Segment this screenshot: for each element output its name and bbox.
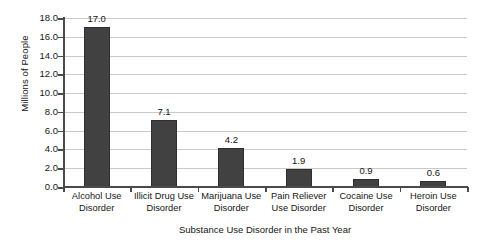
bar — [286, 169, 312, 187]
x-category-label-line: Marijuana Use — [198, 191, 265, 203]
y-tick-mark — [58, 74, 63, 76]
bar-value-label: 17.0 — [73, 14, 121, 24]
x-category-label-line: Pain Reliever — [265, 191, 332, 203]
x-category-label-line: Disorder — [130, 203, 197, 215]
y-tick-label: 12.0 — [18, 69, 58, 79]
x-category-label-line: Illicit Drug Use — [130, 191, 197, 203]
y-tick-label: 4.0 — [18, 144, 58, 154]
x-category-label-line: Disorder — [400, 203, 467, 215]
gridline — [63, 168, 467, 169]
x-tick-mark — [130, 187, 132, 192]
bar-value-label: 0.9 — [342, 166, 390, 176]
gridline — [63, 149, 467, 150]
y-tick-label: 0.0 — [18, 182, 58, 192]
x-category-label: Cocaine UseDisorder — [332, 191, 399, 214]
gridline — [63, 37, 467, 38]
y-tick-label: 6.0 — [18, 126, 58, 136]
x-category-label: Alcohol UseDisorder — [63, 191, 130, 214]
y-tick-mark — [58, 112, 63, 114]
x-category-label: Pain RelieverUse Disorder — [265, 191, 332, 214]
y-tick-label: 2.0 — [18, 163, 58, 173]
bar-value-label: 7.1 — [140, 107, 188, 117]
plot-area: 17.07.14.21.90.90.6 — [63, 18, 467, 187]
y-tick-label: 16.0 — [18, 32, 58, 42]
bar — [218, 148, 244, 187]
x-tick-mark — [198, 187, 200, 192]
y-tick-mark — [58, 168, 63, 170]
y-tick-mark — [58, 18, 63, 20]
gridline — [63, 56, 467, 57]
x-category-label-line: Disorder — [198, 203, 265, 215]
bar-value-label: 0.6 — [409, 168, 457, 178]
gridline — [63, 131, 467, 132]
x-category-label: Illicit Drug UseDisorder — [130, 191, 197, 214]
y-tick-mark — [58, 149, 63, 151]
gridline — [63, 112, 467, 113]
y-axis-line — [63, 17, 65, 188]
bar-value-label: 4.2 — [207, 135, 255, 145]
y-tick-mark — [58, 37, 63, 39]
gridline — [63, 74, 467, 75]
x-tick-mark — [467, 187, 469, 192]
x-category-label-line: Alcohol Use — [63, 191, 130, 203]
x-category-label: Heroin UseDisorder — [400, 191, 467, 214]
x-category-label-line: Cocaine Use — [332, 191, 399, 203]
x-category-label-line: Use Disorder — [265, 203, 332, 215]
gridline — [63, 93, 467, 94]
x-axis-category-labels: Alcohol UseDisorderIllicit Drug UseDisor… — [63, 191, 467, 221]
x-tick-mark — [265, 187, 267, 192]
y-tick-label: 14.0 — [18, 51, 58, 61]
bar — [151, 120, 177, 187]
y-axis-tick-labels: 18.016.014.012.010.08.06.04.02.00.0 — [18, 12, 58, 188]
x-tick-mark — [63, 187, 65, 192]
x-axis-title: Substance Use Disorder in the Past Year — [63, 224, 467, 235]
bar — [84, 27, 110, 187]
gridline — [63, 18, 467, 19]
x-tick-mark — [400, 187, 402, 192]
y-tick-mark — [58, 56, 63, 58]
bar-value-label: 1.9 — [275, 156, 323, 166]
x-category-label-line: Heroin Use — [400, 191, 467, 203]
x-category-label-line: Disorder — [332, 203, 399, 215]
bar-chart: Millions of People 18.016.014.012.010.08… — [0, 0, 484, 252]
x-tick-mark — [332, 187, 334, 192]
y-tick-label: 18.0 — [18, 13, 58, 23]
x-category-label: Marijuana UseDisorder — [198, 191, 265, 214]
y-tick-mark — [58, 93, 63, 95]
y-tick-mark — [58, 131, 63, 133]
y-tick-label: 8.0 — [18, 107, 58, 117]
y-tick-label: 10.0 — [18, 88, 58, 98]
x-category-label-line: Disorder — [63, 203, 130, 215]
